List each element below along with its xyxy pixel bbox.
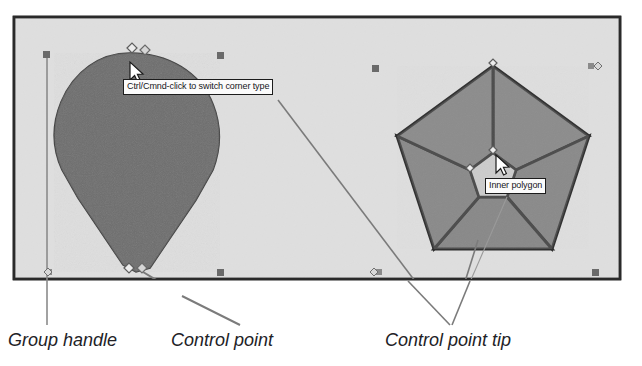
figure-container: Ctrl/Cmnd-click to switch corner type In… — [0, 0, 642, 366]
tooltip-inner-polygon-text: Inner polygon — [489, 180, 542, 190]
tooltip-corner-type-text: Ctrl/Cmnd-click to switch corner type — [127, 81, 269, 91]
caption-group-handle: Group handle — [8, 330, 117, 350]
group-handle-top-center[interactable] — [217, 52, 224, 59]
tooltip-inner-polygon: Inner polygon — [485, 178, 546, 194]
tooltip-corner-type: Ctrl/Cmnd-click to switch corner type — [123, 79, 273, 95]
caption-control-point: Control point — [171, 330, 273, 350]
group-handle-bottom-center[interactable] — [217, 269, 224, 276]
group-handle-tr-square[interactable] — [588, 63, 594, 69]
group-handle-top-left[interactable] — [43, 51, 50, 58]
group-handle-top-mid[interactable] — [372, 65, 379, 72]
caption-control-point-tip: Control point tip — [385, 330, 511, 350]
group-handle-bottom-right[interactable] — [592, 269, 599, 276]
